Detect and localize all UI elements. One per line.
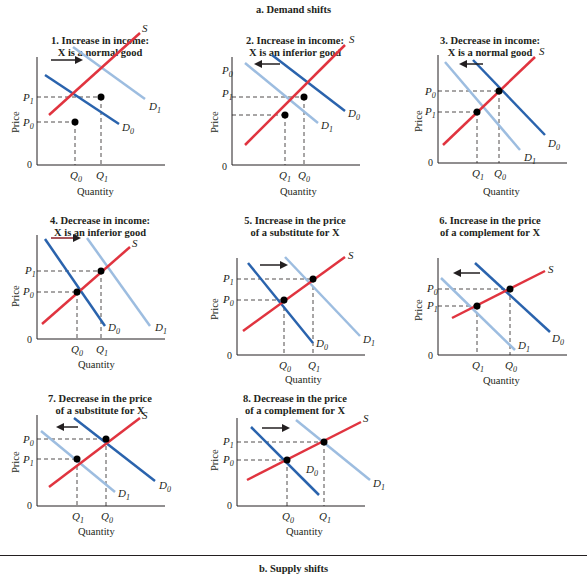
svg-text:Q1: Q1 — [72, 510, 84, 525]
svg-text:Price: Price — [413, 110, 424, 132]
svg-text:S: S — [548, 263, 554, 275]
supply-demand-graph: S D0 D1 P0 P1 Q1 Q0 0 Quantity Price — [5, 393, 195, 563]
svg-text:D1: D1 — [372, 477, 385, 492]
equilibrium-point-initial — [72, 119, 79, 126]
supply-curve — [49, 33, 140, 115]
svg-text:0: 0 — [227, 500, 232, 511]
svg-text:Quantity: Quantity — [280, 186, 317, 197]
supply-demand-graph: S D1 D0 P1 P0 Q0 Q1 0 Quantity Price — [200, 215, 390, 385]
svg-text:Q1: Q1 — [472, 359, 484, 374]
svg-text:Price: Price — [413, 299, 424, 321]
svg-text:0: 0 — [428, 350, 433, 361]
svg-text:Price: Price — [209, 449, 220, 471]
svg-text:0: 0 — [27, 159, 32, 170]
svg-text:Q0: Q0 — [282, 510, 294, 525]
svg-text:D1: D1 — [517, 339, 530, 354]
svg-text:D0: D0 — [347, 107, 360, 122]
svg-text:P1: P1 — [24, 264, 36, 279]
svg-text:S: S — [349, 33, 355, 45]
svg-text:0: 0 — [227, 350, 232, 361]
svg-text:D0: D0 — [158, 479, 171, 494]
svg-text:Quantity: Quantity — [483, 375, 520, 386]
svg-text:0: 0 — [27, 334, 32, 345]
svg-text:P0: P0 — [22, 285, 34, 300]
svg-text:Price: Price — [10, 285, 21, 307]
svg-text:Q1: Q1 — [279, 169, 291, 184]
svg-text:Quantity: Quantity — [285, 374, 322, 385]
svg-text:P0: P0 — [221, 64, 233, 79]
svg-text:D1: D1 — [523, 151, 536, 166]
svg-text:Q1: Q1 — [319, 510, 331, 525]
svg-text:P1: P1 — [221, 87, 233, 102]
svg-text:Q0: Q0 — [494, 167, 506, 182]
svg-text:Quantity: Quantity — [77, 186, 114, 197]
svg-text:P0: P0 — [222, 293, 234, 308]
svg-text:Price: Price — [209, 298, 220, 320]
svg-text:Q1: Q1 — [472, 167, 484, 182]
panel-8-complement-price-decrease: 8. Decrease in the priceof a complement … — [200, 393, 390, 563]
panel-4-inferior-good-income-decrease: 4. Decrease in income:X is an inferior g… — [5, 215, 195, 385]
svg-text:D1: D1 — [117, 487, 130, 502]
panel-6-complement-price-increase: 6. Increase in the priceof a complement … — [395, 215, 585, 385]
svg-text:P1: P1 — [22, 91, 34, 106]
svg-text:Q1: Q1 — [96, 169, 108, 184]
svg-text:Q0: Q0 — [279, 359, 291, 374]
svg-text:S: S — [132, 237, 138, 249]
demand-shifts-heading: a. Demand shifts — [0, 4, 587, 15]
svg-text:S: S — [539, 45, 545, 57]
svg-text:D0: D0 — [315, 337, 328, 352]
svg-text:P1: P1 — [426, 299, 438, 314]
svg-text:Price: Price — [10, 111, 21, 133]
svg-text:Q1: Q1 — [308, 359, 320, 374]
svg-text:Q0: Q0 — [505, 359, 517, 374]
svg-text:Q0: Q0 — [101, 510, 113, 525]
supply-demand-graph: S D1 D0 P1 P0 Q0 Q1 0 Quantity Price — [5, 215, 195, 385]
svg-text:Quantity: Quantity — [78, 359, 115, 370]
supply-shifts-heading: b. Supply shifts — [0, 563, 587, 574]
svg-text:Q0: Q0 — [298, 169, 310, 184]
svg-text:Quantity: Quantity — [286, 526, 323, 537]
demand-curve-d0 — [45, 75, 119, 124]
svg-text:Quantity: Quantity — [78, 526, 115, 537]
svg-text:D0: D0 — [547, 137, 560, 152]
section-divider — [0, 555, 587, 556]
svg-text:P0: P0 — [222, 453, 234, 468]
svg-text:S: S — [348, 249, 354, 261]
svg-text:S: S — [363, 412, 369, 424]
svg-text:D0: D0 — [305, 463, 318, 478]
panel-3-normal-good-income-decrease: 3. Decrease in income:X is a normal good… — [395, 35, 585, 205]
svg-text:P1: P1 — [222, 435, 234, 450]
svg-text:D1: D1 — [320, 119, 333, 134]
svg-text:D1: D1 — [362, 333, 375, 348]
svg-text:P0: P0 — [424, 85, 436, 100]
svg-text:0: 0 — [428, 157, 433, 168]
svg-text:0: 0 — [222, 161, 227, 172]
svg-text:0: 0 — [27, 500, 32, 511]
svg-text:Price: Price — [10, 451, 21, 473]
equilibrium-point-new — [98, 94, 105, 101]
svg-text:Q0: Q0 — [70, 169, 82, 184]
svg-text:P1: P1 — [424, 105, 436, 120]
svg-text:P1: P1 — [222, 272, 234, 287]
svg-text:P0: P0 — [22, 433, 34, 448]
supply-demand-graph: S D1 D0 P1 P0 Q0 Q1 0 Quantity Price — [200, 393, 390, 563]
svg-text:S: S — [142, 22, 148, 34]
svg-text:P0: P0 — [22, 116, 34, 131]
supply-demand-graph: S D0 D1 P0 P1 Q1 Q0 0 Quantity Price — [200, 35, 390, 205]
svg-text:Q0: Q0 — [71, 343, 83, 358]
supply-demand-graph: S D0 D1 P0 P1 Q1 Q0 0 Quantity Price — [395, 215, 585, 385]
svg-text:D1: D1 — [148, 100, 161, 115]
svg-text:D0: D0 — [121, 121, 134, 136]
svg-text:D1: D1 — [154, 321, 167, 336]
svg-text:Q1: Q1 — [96, 343, 108, 358]
panel-7-substitute-price-decrease: 7. Decrease in the priceof a substitute … — [5, 393, 195, 563]
supply-demand-graph: S D1 D0 P1 P0 Q0 Q1 0 Quantity Price — [5, 35, 195, 205]
svg-text:D0: D0 — [107, 321, 120, 336]
panel-1-normal-good-income-increase: 1. Increase in income:X is a normal good… — [5, 35, 195, 205]
svg-text:D0: D0 — [551, 332, 564, 347]
supply-demand-graph: S D0 D1 P0 P1 Q1 Q0 0 Quantity Price — [395, 35, 585, 205]
svg-text:Quantity: Quantity — [483, 186, 520, 197]
panel-2-inferior-good-income-increase: 2. Increase in income:X is an inferior g… — [200, 35, 390, 205]
svg-text:P1: P1 — [22, 453, 34, 468]
svg-text:S: S — [142, 409, 148, 421]
